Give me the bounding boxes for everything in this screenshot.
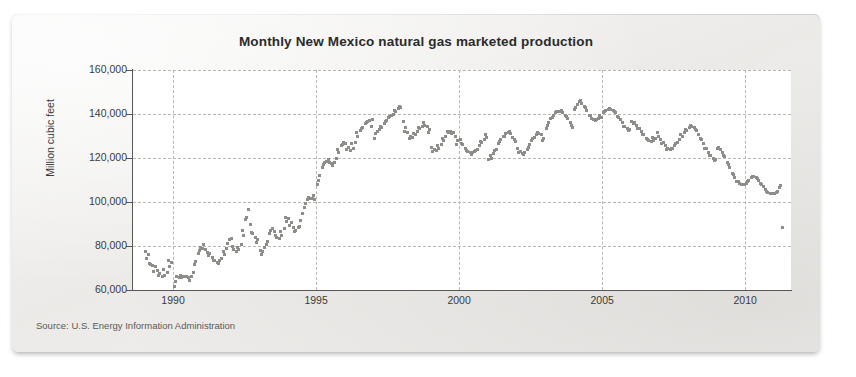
- data-point: [679, 133, 682, 136]
- data-point: [760, 183, 763, 186]
- data-point: [192, 271, 195, 274]
- data-point: [508, 130, 511, 133]
- data-point: [236, 246, 239, 249]
- data-point: [355, 131, 358, 134]
- data-point: [168, 265, 171, 268]
- data-point: [163, 274, 166, 277]
- data-point: [460, 142, 463, 145]
- data-point: [184, 275, 187, 278]
- data-point: [173, 285, 176, 288]
- data-point: [431, 150, 434, 153]
- data-point: [157, 274, 160, 277]
- data-point: [322, 163, 325, 166]
- data-point: [440, 143, 443, 146]
- y-axis-tick-label: 120,000: [67, 151, 127, 163]
- data-point: [260, 253, 263, 256]
- data-point: [188, 279, 191, 282]
- data-point: [441, 137, 444, 140]
- data-point: [589, 114, 592, 117]
- data-point: [717, 146, 720, 149]
- data-point: [374, 132, 377, 135]
- data-point: [622, 125, 625, 128]
- data-point: [304, 202, 307, 205]
- data-point: [250, 231, 253, 234]
- data-point: [641, 133, 644, 136]
- data-point: [416, 130, 419, 133]
- data-point: [478, 144, 481, 147]
- data-point: [341, 143, 344, 146]
- data-point: [307, 196, 310, 199]
- data-point: [479, 140, 482, 143]
- data-point: [517, 151, 520, 154]
- data-point: [274, 234, 277, 237]
- y-axis-tick: [126, 290, 133, 291]
- data-point: [765, 190, 768, 193]
- y-axis-line: [132, 69, 133, 291]
- data-point: [492, 152, 495, 155]
- data-point: [713, 159, 716, 162]
- data-point: [327, 158, 330, 161]
- data-point: [247, 208, 250, 211]
- data-point: [365, 121, 368, 124]
- data-point: [352, 147, 355, 150]
- data-point: [167, 259, 170, 262]
- data-point: [489, 154, 492, 157]
- data-point: [278, 237, 281, 240]
- x-axis-tick-label: 2005: [579, 294, 625, 306]
- data-point: [732, 173, 735, 176]
- plot-area: [133, 70, 791, 290]
- data-point: [728, 166, 731, 169]
- data-point: [313, 198, 316, 201]
- y-axis-tick-label: 160,000: [67, 63, 127, 75]
- data-point: [283, 227, 286, 230]
- data-point: [384, 120, 387, 123]
- data-point: [269, 229, 272, 232]
- data-point: [565, 115, 568, 118]
- data-point: [356, 135, 359, 138]
- data-point: [408, 137, 411, 140]
- data-point: [373, 137, 376, 140]
- data-point: [207, 254, 210, 257]
- data-point: [779, 184, 782, 187]
- data-point: [360, 127, 363, 130]
- data-point: [223, 253, 226, 256]
- x-axis-tick-label: 1995: [293, 294, 339, 306]
- data-point: [249, 223, 252, 226]
- data-point: [241, 229, 244, 232]
- data-point: [694, 128, 697, 131]
- chart-card: Monthly New Mexico natural gas marketed …: [12, 14, 820, 352]
- y-axis-tick: [126, 114, 133, 115]
- data-point: [455, 143, 458, 146]
- data-point: [660, 142, 663, 145]
- y-axis-label: Million cubic feet: [44, 78, 56, 198]
- data-point: [312, 194, 315, 197]
- data-point: [403, 130, 406, 133]
- data-point: [242, 234, 245, 237]
- data-point: [170, 261, 173, 264]
- data-point: [268, 232, 271, 235]
- data-point: [316, 183, 319, 186]
- data-point: [585, 109, 588, 112]
- data-point: [288, 224, 291, 227]
- data-point: [781, 226, 784, 229]
- data-point: [574, 106, 577, 109]
- data-point: [436, 144, 439, 147]
- data-point: [493, 149, 496, 152]
- data-point: [287, 217, 290, 220]
- data-point: [393, 109, 396, 112]
- data-point: [670, 147, 673, 150]
- data-point: [465, 149, 468, 152]
- data-point: [293, 230, 296, 233]
- data-point: [746, 180, 749, 183]
- data-point: [345, 148, 348, 151]
- data-point: [162, 268, 165, 271]
- data-point: [284, 216, 287, 219]
- data-point: [371, 118, 374, 121]
- data-point: [379, 125, 382, 128]
- data-point: [699, 137, 702, 140]
- data-point: [636, 127, 639, 130]
- data-point: [166, 271, 169, 274]
- data-point: [775, 191, 778, 194]
- data-point: [212, 259, 215, 262]
- data-point: [299, 219, 302, 222]
